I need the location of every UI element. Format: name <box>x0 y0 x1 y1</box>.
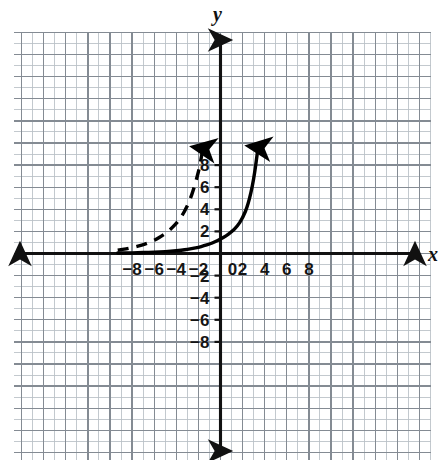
y-tick-label: −8 <box>190 333 209 352</box>
x-tick-label: 4 <box>260 260 270 279</box>
y-tick-label: −2 <box>190 267 209 286</box>
x-tick-label: −8 <box>122 260 141 279</box>
coordinate-plane: −8−6−4−22468 8642−2−4−6−8 0 x y <box>0 0 445 460</box>
y-tick-label: 4 <box>200 200 210 219</box>
x-tick-label: −6 <box>145 260 164 279</box>
y-tick-label: 2 <box>200 222 209 241</box>
graph-figure: −8−6−4−22468 8642−2−4−6−8 0 x y <box>0 0 445 460</box>
figure-background <box>0 0 445 460</box>
y-tick-label: −6 <box>190 311 209 330</box>
x-tick-label: −4 <box>167 260 187 279</box>
y-tick-label: 6 <box>200 178 209 197</box>
x-tick-label: 2 <box>238 260 247 279</box>
x-tick-label: 8 <box>304 260 313 279</box>
y-tick-label: −4 <box>190 289 210 308</box>
y-axis-label: y <box>211 3 222 26</box>
origin-label: 0 <box>228 260 237 279</box>
x-tick-label: 6 <box>282 260 291 279</box>
x-axis-label: x <box>427 243 438 265</box>
y-tick-label: 8 <box>200 156 209 175</box>
